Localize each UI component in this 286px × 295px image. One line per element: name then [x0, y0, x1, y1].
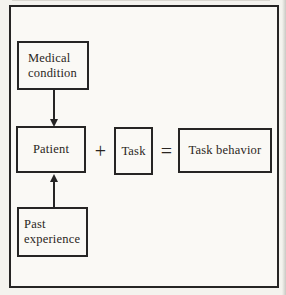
node-task-label: Task [121, 144, 145, 159]
arrowhead-up-icon [50, 174, 58, 182]
equals-operator: = [156, 140, 177, 163]
node-task: Task [114, 127, 153, 175]
node-task-behavior-label: Task behavior [189, 143, 262, 158]
node-past-experience-label: Past experience [24, 217, 80, 247]
scan-artifact-top [12, 0, 270, 1]
arrowhead-down-icon [50, 119, 58, 127]
diagram-canvas: Medical condition Patient Task Task beha… [0, 0, 286, 295]
node-task-behavior: Task behavior [178, 128, 272, 173]
node-medical-condition-label: Medical condition [28, 51, 77, 81]
node-medical-condition: Medical condition [17, 41, 89, 90]
node-patient-label: Patient [33, 142, 69, 157]
arrow-medical-condition-to-patient [53, 90, 55, 120]
node-past-experience: Past experience [17, 207, 88, 257]
node-patient: Patient [16, 126, 86, 173]
arrow-past-experience-to-patient [53, 181, 55, 207]
plus-operator: + [90, 140, 111, 163]
scan-artifact-right [282, 0, 286, 295]
